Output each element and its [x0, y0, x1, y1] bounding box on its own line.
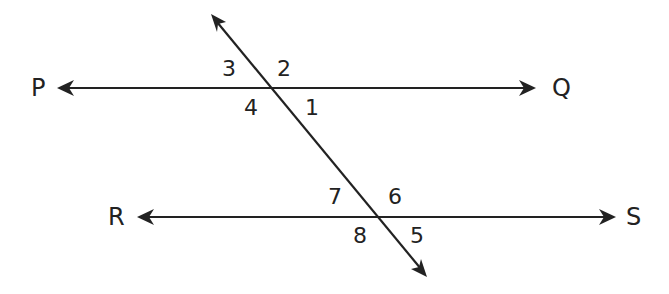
angle-label-7: 7: [328, 186, 342, 208]
angle-label-8: 8: [353, 225, 367, 247]
label-p: P: [31, 76, 45, 100]
label-s: S: [626, 205, 641, 229]
angle-label-2: 2: [277, 58, 291, 80]
label-r: R: [108, 205, 125, 229]
line-rs: [137, 209, 616, 225]
angle-label-5: 5: [410, 225, 424, 247]
line-pq: [57, 80, 536, 96]
line-transversal: [211, 14, 427, 277]
arrow-down-right-icon: [411, 259, 427, 277]
angle-label-1: 1: [305, 97, 319, 119]
angle-label-4: 4: [244, 97, 258, 119]
label-q: Q: [552, 76, 571, 100]
angle-label-3: 3: [222, 58, 236, 80]
angle-label-6: 6: [388, 186, 402, 208]
diagram-canvas: [0, 0, 669, 294]
